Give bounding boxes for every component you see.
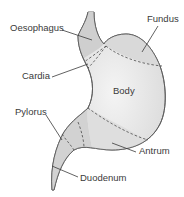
label-duodenum: Duodenum (80, 173, 126, 183)
label-body: Body (113, 86, 135, 96)
label-pylorus: Pylorus (15, 107, 47, 117)
label-oesophagus: Oesophagus (10, 23, 64, 33)
label-cardia: Cardia (22, 71, 50, 81)
label-antrum: Antrum (139, 146, 170, 156)
label-fundus: Fundus (147, 14, 179, 24)
